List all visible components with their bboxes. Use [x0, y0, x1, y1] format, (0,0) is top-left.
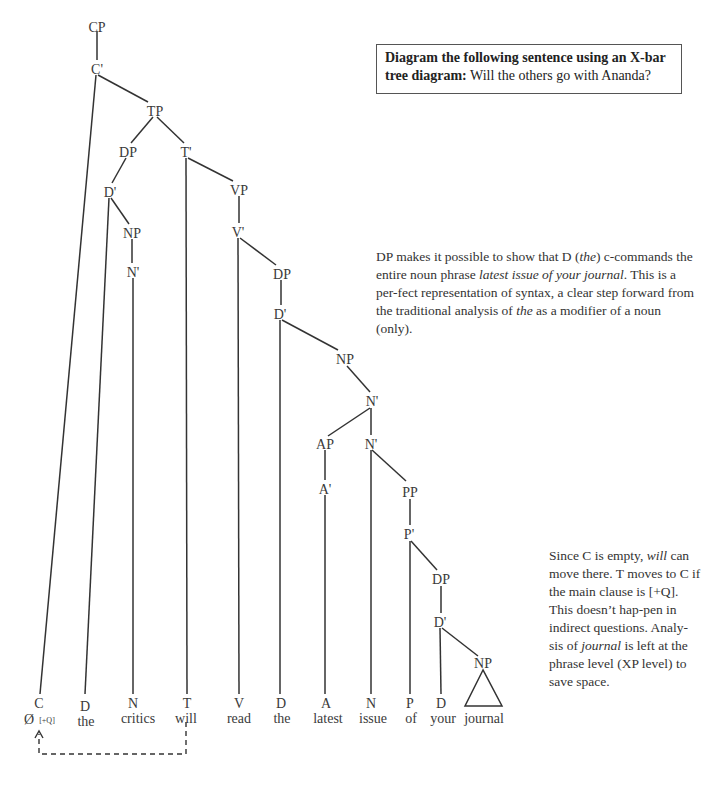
leaf-cat-d: D	[80, 699, 90, 714]
node-dp-subject: DP	[119, 145, 137, 160]
node-n-bar-subject: N'	[127, 265, 140, 280]
leaf-word-your: your	[430, 711, 456, 726]
leaf-cat-a: A	[321, 696, 332, 711]
leaf-word-the2: the	[273, 711, 290, 726]
leaf-word-latest: latest	[313, 711, 343, 726]
node-np-object: NP	[336, 352, 354, 367]
node-n-bar-object: N'	[366, 394, 379, 409]
tree-branches	[40, 31, 502, 706]
leaf-cat-p: P	[406, 696, 414, 711]
leaf-word-null: Ø	[24, 712, 34, 727]
tree-leaves: C Ø [+Q] D the N critics T will V read D…	[24, 696, 504, 729]
t-to-c-movement-arrow	[35, 722, 186, 754]
leaf-feature-q: [+Q]	[39, 716, 55, 725]
node-t-bar: T'	[180, 145, 191, 160]
leaf-word-journal: journal	[463, 711, 504, 726]
node-vp: VP	[230, 183, 248, 198]
node-np-subject: NP	[123, 226, 141, 241]
xbar-tree-diagram: CP C' TP DP T' D' VP NP V' N' DP D' NP N…	[0, 0, 702, 787]
leaf-cat-n2: N	[366, 696, 376, 711]
node-d-bar-subject: D'	[104, 185, 117, 200]
node-pp: PP	[402, 485, 418, 500]
leaf-cat-c: C	[34, 696, 43, 711]
node-v-bar: V'	[232, 225, 245, 240]
leaf-word-of: of	[405, 711, 417, 726]
leaf-word-critics: critics	[121, 711, 155, 726]
node-n-bar-inner: N'	[365, 437, 378, 452]
leaf-word-read: read	[227, 711, 251, 726]
node-ap: AP	[316, 437, 334, 452]
leaf-word-issue: issue	[359, 711, 387, 726]
leaf-cat-d2: D	[276, 696, 286, 711]
node-np-journal: NP	[474, 656, 492, 671]
leaf-word-the: the	[77, 714, 94, 729]
leaf-cat-n: N	[128, 696, 138, 711]
node-c-bar: C'	[91, 62, 103, 77]
node-d-bar-pobject: D'	[434, 615, 447, 630]
node-cp: CP	[88, 20, 105, 35]
node-p-bar: P'	[404, 527, 414, 542]
leaf-cat-t: T	[183, 696, 192, 711]
node-tp: TP	[147, 104, 164, 119]
node-d-bar-object: D'	[274, 307, 287, 322]
node-a-bar: A'	[319, 482, 332, 497]
leaf-word-will: will	[175, 711, 197, 726]
leaf-cat-v: V	[234, 696, 244, 711]
node-dp-object: DP	[273, 267, 291, 282]
leaf-cat-d3: D	[436, 696, 446, 711]
tree-nodes: CP C' TP DP T' D' VP NP V' N' DP D' NP N…	[88, 20, 492, 671]
node-dp-pobject: DP	[432, 572, 450, 587]
